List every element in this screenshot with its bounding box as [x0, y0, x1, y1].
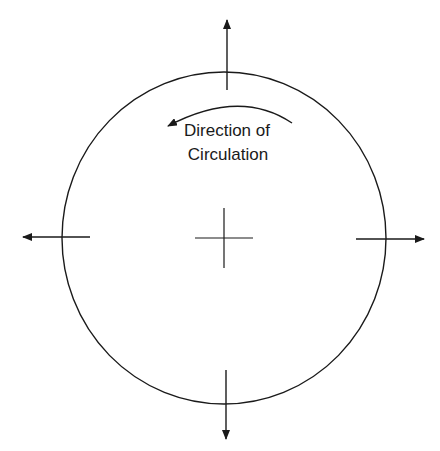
- label-direction-of: Direction of: [184, 121, 270, 140]
- label-circulation: Circulation: [188, 145, 268, 164]
- circulation-diagram: Direction of Circulation: [0, 0, 440, 451]
